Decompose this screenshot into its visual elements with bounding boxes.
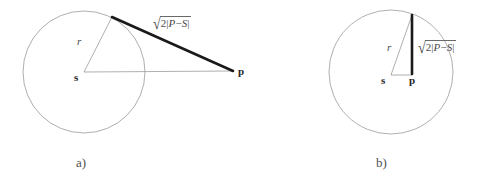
panel-a-abs-close: | [187, 17, 189, 29]
panel-a-geometry [23, 11, 233, 133]
figure-canvas [0, 0, 479, 182]
panel-a-sqrt-body: 2|P−S| [160, 16, 191, 29]
panel-b-radius-line [391, 15, 412, 75]
panel-b-geometry [329, 10, 453, 134]
panel-a-radius-line [84, 17, 112, 72]
panel-b-sqrt-sign: √ [418, 40, 426, 55]
panel-a-sqrt-sign: √ [153, 16, 161, 31]
panel-b-length-label: √ 2|P−S| [418, 40, 456, 53]
panel-b-caption: b) [376, 156, 387, 169]
panel-a-radius-label: r [77, 36, 81, 47]
panel-b-circle [329, 10, 453, 134]
panel-b-point-label: p [409, 75, 415, 86]
panel-b-center-label: s [381, 75, 385, 86]
panel-b-sqrt-body: 2|P−S| [425, 40, 456, 53]
figure-root: r s p √ 2|P−S| a) r s p √ 2|P−S| b) [0, 0, 479, 182]
panel-b-abs-close: | [452, 41, 454, 53]
panel-a-center-to-p-line [84, 71, 233, 72]
panel-a-caption: a) [76, 156, 86, 169]
panel-a-center-label: s [74, 72, 78, 83]
panel-b-radius-label: r [387, 42, 391, 53]
panel-a-length-label: √ 2|P−S| [153, 16, 191, 29]
panel-a-point-label: p [238, 66, 244, 77]
